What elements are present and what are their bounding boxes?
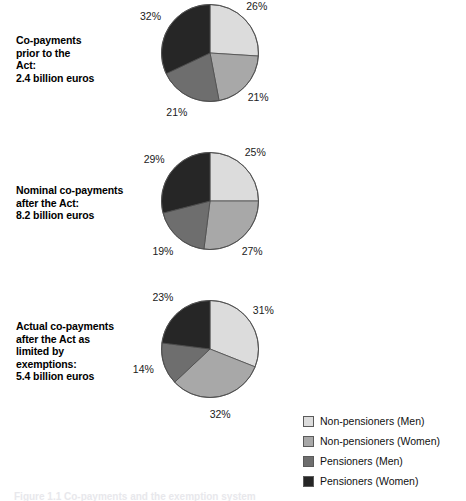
pie-chart-nominal: 25%27%19%29% xyxy=(161,152,259,250)
pie-svg xyxy=(161,152,259,250)
legend: Non-pensioners (Men)Non-pensioners (Wome… xyxy=(303,412,463,492)
pie-slice xyxy=(162,301,210,350)
pie-percent-label: 26% xyxy=(246,0,267,12)
pie-percent-label: 31% xyxy=(253,304,274,316)
chart-block-prior: Co-payments prior to the Act: 2.4 billio… xyxy=(0,0,466,140)
pie-percent-label: 32% xyxy=(210,408,231,420)
legend-item-label: Non-pensioners (Women) xyxy=(320,435,440,447)
legend-item-label: Non-pensioners (Men) xyxy=(320,415,424,427)
pie-chart-actual: 31%32%14%23% xyxy=(161,300,259,398)
pie-percent-label: 14% xyxy=(133,363,154,375)
legend-item-label: Pensioners (Women) xyxy=(320,475,418,487)
pie-slice xyxy=(210,5,258,57)
legend-swatch-icon xyxy=(303,456,314,467)
legend-swatch-icon xyxy=(303,416,314,427)
legend-item[interactable]: Non-pensioners (Men) xyxy=(303,412,463,430)
pie-slice xyxy=(210,153,259,202)
pie-svg xyxy=(161,4,259,102)
legend-swatch-icon xyxy=(303,436,314,447)
pie-percent-label: 32% xyxy=(140,10,161,22)
pie-percent-label: 21% xyxy=(166,106,187,118)
pie-percent-label: 21% xyxy=(248,91,269,103)
pie-percent-label: 27% xyxy=(242,245,263,257)
figure-caption: Figure 1.1 Co-payments and the exemption… xyxy=(14,491,354,501)
pie-percent-label: 23% xyxy=(152,291,173,303)
pie-svg xyxy=(161,300,259,398)
chart-caption-nominal: Nominal co-payments after the Act: 8.2 b… xyxy=(16,184,166,222)
pie-percent-label: 25% xyxy=(245,146,266,158)
pie-chart-prior: 26%21%21%32% xyxy=(161,4,259,102)
pie-percent-label: 29% xyxy=(144,153,165,165)
legend-item-label: Pensioners (Men) xyxy=(320,455,403,467)
pie-percent-label: 19% xyxy=(152,245,173,257)
chart-block-nominal: Nominal co-payments after the Act: 8.2 b… xyxy=(0,148,466,288)
chart-caption-prior: Co-payments prior to the Act: 2.4 billio… xyxy=(16,34,166,84)
legend-item[interactable]: Pensioners (Women) xyxy=(303,472,463,490)
legend-item[interactable]: Pensioners (Men) xyxy=(303,452,463,470)
legend-swatch-icon xyxy=(303,476,314,487)
legend-item[interactable]: Non-pensioners (Women) xyxy=(303,432,463,450)
pie-slice xyxy=(204,201,259,250)
